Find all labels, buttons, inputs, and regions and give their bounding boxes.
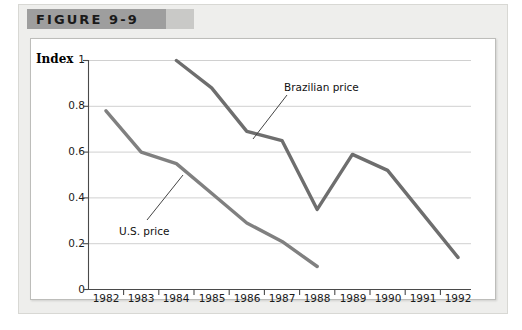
x-tick-marks bbox=[124, 290, 441, 296]
plot-area bbox=[31, 39, 495, 299]
y-tick-marks bbox=[83, 61, 88, 290]
axis-lines bbox=[88, 60, 471, 290]
series-line-us-price bbox=[106, 111, 317, 267]
banner-shade bbox=[166, 9, 194, 29]
figure-container: FIGURE 9-9 Index 1 0.8 0.6 0.4 0.2 0 198… bbox=[0, 0, 522, 330]
series-line-brazilian-price bbox=[176, 61, 458, 258]
leader-line-brazilian-price bbox=[253, 95, 287, 139]
figure-banner-label: FIGURE 9-9 bbox=[36, 11, 139, 28]
chart-panel: Index 1 0.8 0.6 0.4 0.2 0 1982 1983 1984… bbox=[30, 38, 496, 300]
